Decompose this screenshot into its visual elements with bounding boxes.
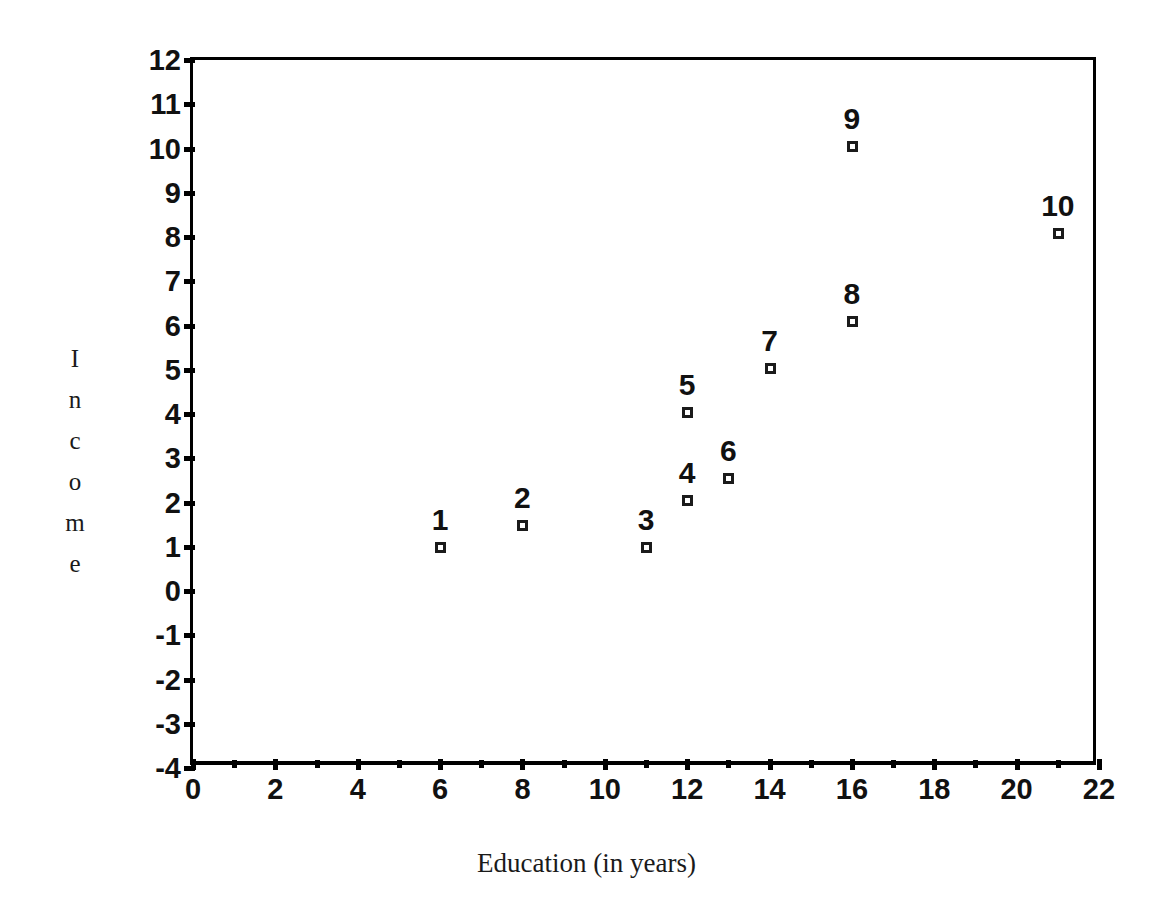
y-axis-title-letter: c (55, 420, 95, 461)
x-tick-mark (1056, 760, 1061, 768)
data-point-label-2: 2 (514, 483, 531, 513)
y-tick-mark (184, 501, 195, 506)
y-tick-label: 3 (165, 444, 181, 473)
y-tick-label: 7 (165, 267, 181, 296)
data-point-8[interactable] (847, 316, 858, 327)
x-tick-mark (479, 760, 484, 768)
y-axis-title-letter: I (55, 338, 95, 379)
x-tick-mark (973, 760, 978, 768)
x-tick-label: 14 (753, 775, 785, 804)
data-point-2[interactable] (517, 520, 528, 531)
x-tick-label: 4 (350, 775, 366, 804)
y-tick-label: 6 (165, 311, 181, 340)
x-tick-mark (726, 760, 731, 768)
data-point-label-1: 1 (432, 505, 449, 535)
y-tick-mark (184, 235, 195, 240)
x-tick-mark (768, 759, 773, 770)
data-point-label-3: 3 (638, 505, 655, 535)
data-point-5[interactable] (682, 407, 693, 418)
data-point-6[interactable] (723, 473, 734, 484)
x-tick-mark (850, 759, 855, 770)
x-tick-label: 2 (267, 775, 283, 804)
y-tick-label: -2 (155, 665, 181, 694)
x-tick-mark (562, 760, 567, 768)
y-axis-title-letter: e (55, 543, 95, 584)
y-tick-mark (184, 456, 195, 461)
data-point-label-5: 5 (679, 370, 696, 400)
x-tick-mark (315, 760, 320, 768)
y-tick-label: 0 (165, 577, 181, 606)
y-tick-mark (184, 633, 195, 638)
data-point-9[interactable] (847, 141, 858, 152)
y-tick-mark (184, 678, 195, 683)
y-tick-label: 4 (165, 400, 181, 429)
x-tick-mark (191, 759, 196, 770)
data-point-7[interactable] (765, 363, 776, 374)
x-tick-mark (397, 760, 402, 768)
x-tick-mark (603, 759, 608, 770)
x-tick-label: 10 (589, 775, 621, 804)
y-axis-title-letter: m (55, 502, 95, 543)
y-tick-label: 5 (165, 355, 181, 384)
y-tick-label: -4 (155, 754, 181, 783)
data-point-3[interactable] (641, 542, 652, 553)
data-point-label-10: 10 (1041, 191, 1074, 221)
y-tick-mark (184, 102, 195, 107)
y-tick-mark (184, 545, 195, 550)
y-axis-title-letter: o (55, 461, 95, 502)
x-tick-label: 6 (432, 775, 448, 804)
x-tick-mark (644, 760, 649, 768)
x-tick-label: 18 (918, 775, 950, 804)
x-tick-mark (232, 760, 237, 768)
data-point-4[interactable] (682, 495, 693, 506)
x-tick-mark (932, 759, 937, 770)
x-tick-mark (520, 759, 525, 770)
y-tick-label: -1 (155, 621, 181, 650)
y-tick-mark (184, 279, 195, 284)
x-tick-label: 20 (1000, 775, 1032, 804)
x-tick-label: 12 (671, 775, 703, 804)
y-tick-label: 8 (165, 223, 181, 252)
data-point-10[interactable] (1053, 228, 1064, 239)
data-point-label-9: 9 (844, 104, 861, 134)
x-tick-mark (356, 759, 361, 770)
x-tick-label: 16 (836, 775, 868, 804)
x-tick-label: 8 (514, 775, 530, 804)
data-point-label-8: 8 (844, 279, 861, 309)
y-tick-mark (184, 191, 195, 196)
data-point-1[interactable] (435, 542, 446, 553)
data-point-label-6: 6 (720, 436, 737, 466)
y-tick-label: 12 (149, 46, 181, 75)
y-tick-mark (184, 58, 195, 63)
x-tick-mark (438, 759, 443, 770)
x-tick-mark (685, 759, 690, 770)
y-tick-mark (184, 412, 195, 417)
y-tick-label: 2 (165, 488, 181, 517)
x-tick-label: 22 (1083, 775, 1115, 804)
y-tick-label: -3 (155, 709, 181, 738)
y-tick-mark (184, 722, 195, 727)
data-point-label-7: 7 (761, 326, 778, 356)
y-tick-mark (184, 324, 195, 329)
y-tick-mark (184, 589, 195, 594)
plot-area: -4-3-2-10123456789101112 024681012141618… (190, 57, 1096, 765)
y-tick-mark (184, 147, 195, 152)
data-point-label-4: 4 (679, 458, 696, 488)
y-tick-mark (184, 368, 195, 373)
y-tick-label: 10 (149, 134, 181, 163)
x-tick-mark (1015, 759, 1020, 770)
x-tick-mark (1097, 759, 1102, 770)
x-tick-mark (809, 760, 814, 768)
x-tick-label: 0 (185, 775, 201, 804)
y-axis-title-letter: n (55, 379, 95, 420)
y-tick-label: 1 (165, 532, 181, 561)
x-tick-mark (891, 760, 896, 768)
x-axis-title: Education (in years) (0, 848, 1173, 879)
x-tick-mark (273, 759, 278, 770)
y-tick-label: 9 (165, 178, 181, 207)
scatter-chart-figure: -4-3-2-10123456789101112 024681012141618… (0, 0, 1173, 924)
y-tick-label: 11 (150, 90, 181, 119)
y-axis-title: Income (55, 338, 95, 584)
